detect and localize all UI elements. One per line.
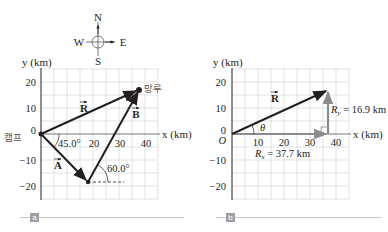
y-tick: −20 bbox=[20, 181, 36, 192]
camp-label: 캠프 bbox=[4, 132, 22, 143]
panel-b-rule bbox=[216, 217, 382, 218]
angle-B-label: 60.0° bbox=[107, 163, 130, 174]
theta-label: θ bbox=[260, 122, 265, 133]
y-tick: 20 bbox=[26, 77, 37, 88]
y-tick: 10 bbox=[26, 103, 37, 114]
y-tick: 20 bbox=[216, 77, 227, 88]
y-tick: 10 bbox=[216, 103, 227, 114]
y-tick: 0 bbox=[31, 125, 36, 136]
svg-text:R: R bbox=[271, 92, 280, 104]
svg-text:R: R bbox=[80, 102, 89, 114]
x-axis-label-a: x (km) bbox=[162, 128, 192, 141]
x-tick: 40 bbox=[141, 138, 152, 149]
label-A-a: A bbox=[54, 159, 62, 171]
x-tick: 20 bbox=[279, 137, 290, 148]
panel-a-graph: y (km) x (km) 20 10 0 −10 −20 20 30 40 캠… bbox=[4, 56, 192, 200]
vector-diagram: N S E W y bbox=[0, 0, 388, 232]
panel-a-rule bbox=[20, 217, 184, 218]
label-R-b: R bbox=[271, 92, 280, 104]
vector-R-b bbox=[232, 91, 326, 134]
Rx-label: Rx = 37.7 km bbox=[254, 148, 310, 161]
x-axis-label-b: x (km) bbox=[353, 128, 383, 141]
svg-text:A: A bbox=[54, 159, 62, 171]
compass: N S E W bbox=[74, 11, 127, 67]
compass-north: N bbox=[94, 11, 102, 23]
panel-b-tag: b bbox=[226, 213, 235, 222]
svg-text:B: B bbox=[132, 108, 140, 120]
tower-label: 망루 bbox=[144, 83, 162, 94]
x-tick: 40 bbox=[331, 137, 342, 148]
vector-R bbox=[41, 91, 136, 134]
x-tick: 10 bbox=[253, 137, 264, 148]
x-tick: 30 bbox=[115, 138, 126, 149]
y-tick: −20 bbox=[210, 181, 226, 192]
label-R-a: R bbox=[80, 102, 89, 114]
compass-south: S bbox=[95, 55, 101, 67]
y-tick: −10 bbox=[20, 155, 36, 166]
angle-A-label: 45.0° bbox=[58, 138, 81, 149]
x-tick: 30 bbox=[305, 137, 316, 148]
compass-east: E bbox=[120, 36, 127, 48]
panel-b-graph: y (km) x (km) 20 10 0 −10 −20 O 10 20 30… bbox=[210, 56, 387, 200]
y-axis-label-a: y (km) bbox=[22, 56, 52, 69]
y-tick: −10 bbox=[210, 155, 226, 166]
label-B-a: B bbox=[132, 108, 140, 120]
Ry-label: Ry = 16.9 km bbox=[330, 104, 386, 117]
compass-west: W bbox=[74, 36, 85, 48]
panel-a-tag: a bbox=[30, 213, 39, 222]
origin-label: O bbox=[218, 135, 226, 146]
y-axis-label-b: y (km) bbox=[213, 56, 243, 69]
x-tick: 20 bbox=[89, 138, 100, 149]
